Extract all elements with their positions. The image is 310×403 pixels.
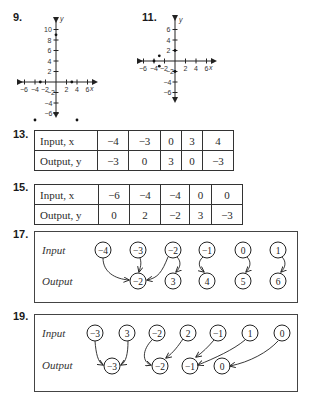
table-cell: 4 xyxy=(203,131,234,151)
problem-19-mapping-box xyxy=(34,314,298,392)
table-cell: −4 xyxy=(98,131,129,151)
graph-9-tick-labels: −6 −4 −2 2 4 6 x 10 8 6 4 2 −2 −4 −6 y xyxy=(20,15,94,117)
table-cell: −3 xyxy=(129,131,161,151)
table-row-output: Output, y 0 2 −2 3 −3 xyxy=(35,205,243,225)
graph-11-tick-labels: −6 −4 −2 2 4 6 x 6 4 2 −2 −4 −6 y xyxy=(139,16,213,96)
table-cell: 0 xyxy=(190,185,212,205)
output-header: Output, y xyxy=(35,151,98,171)
table-cell: 0 xyxy=(99,205,130,225)
problem-13-table: Input, x −4 −3 0 3 4 Output, y −3 0 3 0 … xyxy=(34,130,234,171)
svg-text:−4: −4 xyxy=(31,86,39,93)
svg-text:−6: −6 xyxy=(45,110,53,117)
table-cell: 3 xyxy=(190,205,212,225)
svg-text:−6: −6 xyxy=(164,89,172,96)
problem-13-number: 13. xyxy=(13,128,28,140)
table-cell: 3 xyxy=(161,151,182,171)
svg-text:2: 2 xyxy=(184,65,188,72)
problem-15-number: 15. xyxy=(13,181,28,193)
svg-text:x: x xyxy=(208,64,213,71)
svg-text:2: 2 xyxy=(48,68,52,75)
table-cell: −2 xyxy=(161,205,190,225)
svg-text:4: 4 xyxy=(167,37,171,44)
table-row-input: Input, x −6 −4 −4 0 0 xyxy=(35,185,243,205)
table-cell: −3 xyxy=(98,151,129,171)
graph-11-axes xyxy=(140,18,214,100)
svg-text:6: 6 xyxy=(167,26,171,33)
svg-text:2: 2 xyxy=(167,47,171,54)
table-row-output: Output, y −3 0 3 0 −3 xyxy=(35,151,234,171)
svg-text:y: y xyxy=(59,15,64,23)
problem-17-number: 17. xyxy=(13,228,28,240)
svg-text:−4: −4 xyxy=(150,65,158,72)
table-cell: −4 xyxy=(161,185,190,205)
graph-9: −6 −4 −2 2 4 6 x 10 8 6 4 2 −2 −4 −6 y −… xyxy=(0,0,310,125)
svg-text:10: 10 xyxy=(44,26,52,33)
input-header: Input, x xyxy=(35,131,98,151)
svg-text:6: 6 xyxy=(86,86,90,93)
input-header: Input, x xyxy=(35,185,99,205)
svg-text:4: 4 xyxy=(194,65,198,72)
svg-text:6: 6 xyxy=(48,47,52,54)
problem-15-table: Input, x −6 −4 −4 0 0 Output, y 0 2 −2 3… xyxy=(34,184,243,225)
table-cell: 0 xyxy=(161,131,182,151)
svg-text:4: 4 xyxy=(75,86,79,93)
svg-text:8: 8 xyxy=(48,37,52,44)
table-cell: 3 xyxy=(182,131,203,151)
svg-text:2: 2 xyxy=(65,86,69,93)
problem-19-number: 19. xyxy=(13,310,28,322)
table-cell: 0 xyxy=(182,151,203,171)
svg-text:−6: −6 xyxy=(139,65,147,72)
table-cell: 0 xyxy=(212,185,243,205)
problem-17-mapping-box xyxy=(34,231,298,303)
svg-text:4: 4 xyxy=(48,58,52,65)
graph-9-axes xyxy=(20,20,95,115)
svg-text:−4: −4 xyxy=(164,79,172,86)
table-cell: −3 xyxy=(212,205,243,225)
table-cell: −4 xyxy=(130,185,161,205)
svg-text:−2: −2 xyxy=(47,89,55,96)
table-cell: 0 xyxy=(129,151,161,171)
svg-text:−4: −4 xyxy=(45,100,53,107)
svg-text:−2: −2 xyxy=(166,68,174,75)
table-cell: −3 xyxy=(203,151,234,171)
svg-text:6: 6 xyxy=(205,65,209,72)
table-row-input: Input, x −4 −3 0 3 4 xyxy=(35,131,234,151)
svg-text:−6: −6 xyxy=(20,86,28,93)
svg-text:y: y xyxy=(178,16,183,24)
table-cell: 2 xyxy=(130,205,161,225)
table-cell: −6 xyxy=(99,185,130,205)
svg-text:x: x xyxy=(89,85,94,92)
output-header: Output, y xyxy=(35,205,99,225)
